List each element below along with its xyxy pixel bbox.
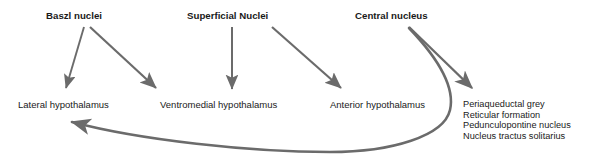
- arrow-central-to-brainstem: [409, 27, 472, 88]
- arrow-baszl-to-lateral: [66, 27, 84, 88]
- target-label-anterior-hypothalamus: Anterior hypothalamus: [330, 100, 425, 111]
- list-item-reticular-formation: Reticular formation: [463, 110, 571, 121]
- source-label-superficial-nuclei: Superficial Nuclei: [187, 10, 268, 21]
- arrow-superficial-to-anterior: [272, 27, 341, 88]
- source-label-baszl-nuclei: Baszl nuclei: [46, 10, 102, 21]
- arrow-baszl-to-ventromedial: [90, 27, 156, 88]
- source-label-central-nucleus: Central nucleus: [355, 10, 428, 21]
- list-item-nucleus-tractus-solitarius: Nucleus tractus solitarius: [463, 131, 571, 142]
- target-label-lateral-hypothalamus: Lateral hypothalamus: [18, 100, 109, 111]
- diagram-canvas: Baszl nuclei Superficial Nuclei Central …: [0, 0, 603, 159]
- arrow-central-to-lateral-curved: [72, 28, 451, 152]
- list-item-pedunculopontine-nucleus: Pedunculopontine nucleus: [463, 120, 571, 131]
- target-label-ventromedial-hypothalamus: Ventromedial hypothalamus: [160, 100, 277, 111]
- list-item-periaqueductal-grey: Periaqueductal grey: [463, 99, 571, 110]
- brainstem-target-list: Periaqueductal grey Reticular formation …: [463, 99, 571, 141]
